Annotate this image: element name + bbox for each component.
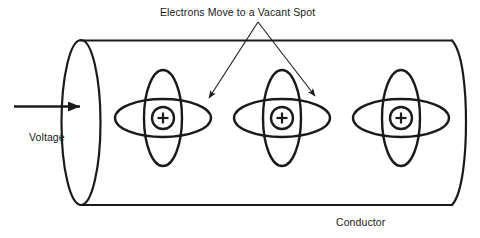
annotation-label: Electrons Move to a Vacant Spot: [160, 6, 315, 18]
voltage-label: Voltage: [29, 131, 65, 143]
atom-3: [353, 70, 449, 166]
conductor-label: Conductor: [336, 216, 385, 228]
atom-3-nucleus-plus-icon: [396, 113, 407, 124]
atom-2-nucleus-plus-icon: [277, 113, 288, 124]
atom-1-nucleus-plus-icon: [158, 113, 169, 124]
atom-2: [234, 70, 330, 166]
atom-1: [115, 70, 211, 166]
cylinder-right-cap: [452, 41, 466, 206]
annotation-arrows: [209, 22, 315, 98]
diagram-canvas: Electrons Move to a Vacant Spot Voltage …: [0, 0, 480, 238]
annotation-arrow-right: [258, 22, 315, 96]
conductor-diagram: [0, 0, 480, 238]
cylinder-left-cap: [62, 40, 101, 205]
annotation-arrow-left: [209, 22, 258, 98]
